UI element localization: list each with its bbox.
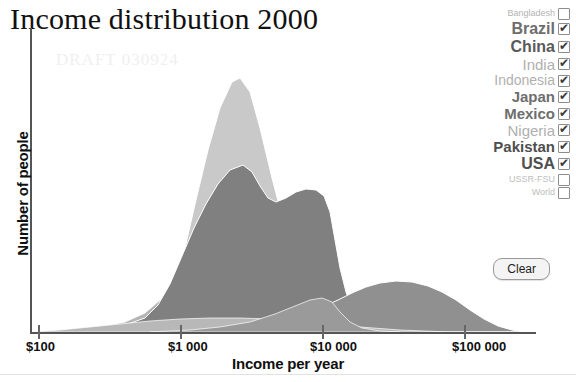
legend-item-usa[interactable]: USA [458,156,570,173]
x-tick-mark-4 [464,325,466,339]
x-axis-title: Income per year [0,355,576,372]
legend-checkbox[interactable] [558,108,570,120]
legend-item-india[interactable]: India [458,57,570,73]
legend-checkbox[interactable] [558,75,570,87]
legend-item-indonesia[interactable]: Indonesia [458,73,570,88]
legend-item-nigeria[interactable]: Nigeria [458,123,570,139]
legend-label: Nigeria [507,123,555,139]
legend-checkbox[interactable] [558,124,570,136]
legend-item-world[interactable]: World [458,187,570,199]
legend-item-japan[interactable]: Japan [458,89,570,105]
x-axis-line [30,332,536,334]
legend-item-mexico[interactable]: Mexico [458,106,570,122]
legend-item-pakistan[interactable]: Pakistan [458,139,570,155]
x-tick-label-1000: $1 000 [168,339,208,354]
legend-label: India [522,57,555,73]
legend-checkbox[interactable] [558,141,570,153]
legend-checkbox[interactable] [558,23,570,35]
legend-checkbox[interactable] [558,187,570,199]
legend-checkbox[interactable] [558,174,570,186]
legend-label: Pakistan [493,139,555,155]
clear-button[interactable]: Clear [493,258,550,280]
legend-label: Japan [512,89,555,105]
legend-item-ussr-fsu[interactable]: USSR-FSU [458,174,570,186]
legend-item-brazil[interactable]: Brazil [458,21,570,38]
legend-label: Mexico [504,106,555,122]
x-tick-mark-1 [38,325,40,339]
legend-label: World [532,188,555,197]
draft-watermark: DRAFT 030924 [56,50,179,70]
chart-screenshot: Income distribution 2000 $100 $1 000 $10… [0,0,576,382]
legend-checkbox[interactable] [558,41,570,53]
legend-checkbox[interactable] [558,8,570,20]
legend-label: Indonesia [494,73,555,88]
legend-checkbox[interactable] [558,91,570,103]
legend-label: Brazil [511,21,555,38]
legend-label: USA [521,156,555,173]
legend-label: Bangladesh [507,9,555,18]
x-tick-label-100: $100 [26,339,55,354]
legend-checkbox[interactable] [558,58,570,70]
legend-label: China [511,39,555,56]
legend-item-china[interactable]: China [458,39,570,56]
legend-item-bangladesh[interactable]: Bangladesh [458,8,570,20]
y-axis-title: Number of people [14,114,31,274]
legend-label: USSR-FSU [509,175,555,184]
page-separator [0,374,576,375]
x-tick-label-100000: $100 000 [452,339,506,354]
country-legend: Bangladesh Brazil China India Indonesia … [458,8,570,200]
x-tick-mark-2 [180,325,182,339]
legend-checkbox[interactable] [558,158,570,170]
x-tick-mark-3 [322,325,324,339]
x-tick-label-10000: $10 000 [310,339,357,354]
